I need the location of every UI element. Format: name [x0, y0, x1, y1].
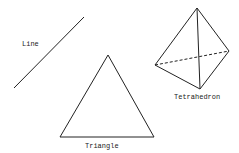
line-label: Line: [22, 40, 39, 48]
tetrahedron-shape: Tetrahedron: [155, 8, 229, 101]
diagram-canvas: Line Triangle Tetrahedron: [0, 0, 239, 153]
tetrahedron-label: Tetrahedron: [174, 93, 220, 101]
triangle-label: Triangle: [85, 142, 119, 150]
line-shape: Line: [14, 17, 84, 88]
triangle-shape: Triangle: [60, 55, 154, 150]
shapes-svg: Line Triangle Tetrahedron: [0, 0, 239, 153]
hidden-edge: [155, 51, 229, 65]
